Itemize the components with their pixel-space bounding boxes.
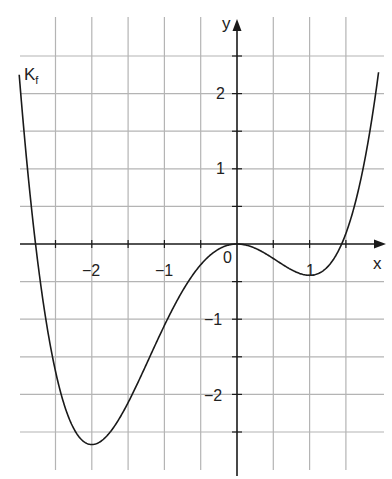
y-tick-label: −1 [204, 312, 222, 328]
curve-kf [19, 72, 378, 444]
x-tick-label: −1 [155, 263, 173, 279]
x-axis-arrow-icon [374, 240, 386, 249]
curve-label: Kf [24, 66, 38, 86]
y-axis-arrow-icon [233, 19, 242, 31]
y-axis-label: y [222, 15, 231, 32]
x-axis-label: x [373, 255, 382, 272]
y-tick-label: −2 [204, 388, 222, 404]
y-tick-label: 2 [216, 86, 225, 102]
axes [20, 19, 386, 476]
y-tick-label: 1 [216, 161, 225, 177]
x-tick-label: −2 [82, 263, 100, 279]
function-graph [0, 0, 392, 479]
x-tick-label: 0 [223, 250, 232, 266]
x-tick-label: 1 [306, 263, 315, 279]
